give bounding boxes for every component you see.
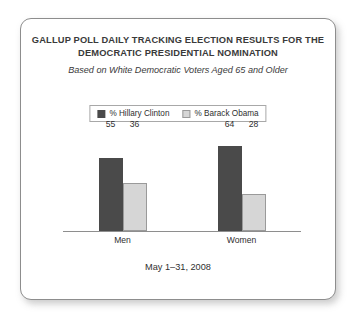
category-label-men: Men (93, 235, 153, 245)
chart-title-line-2: DEMOCRATIC PRESIDENTIAL NOMINATION (21, 47, 335, 60)
legend-label-obama: % Barack Obama (194, 109, 258, 118)
chart-title-line-1: GALLUP POLL DAILY TRACKING ELECTION RESU… (21, 34, 335, 47)
screenshot-stage: GALLUP POLL DAILY TRACKING ELECTION RESU… (0, 0, 356, 320)
bar-value-men-obama: 36 (130, 119, 140, 129)
bar-women-clinton (218, 146, 242, 231)
bar-wrap-men-obama: 36 (123, 131, 147, 231)
legend-swatch-icon-obama (182, 110, 190, 118)
bar-value-women-clinton: 64 (225, 119, 235, 129)
chart-legend: % Hillary Clinton % Barack Obama (89, 105, 266, 122)
bar-group-men: 55 36 (99, 131, 147, 231)
bar-men-obama (123, 183, 147, 231)
chart-footer-date: May 1–31, 2008 (21, 262, 335, 272)
legend-swatch-icon-clinton (97, 110, 105, 118)
legend-item-obama: % Barack Obama (182, 109, 258, 118)
chart-plot-area: 55 36 64 28 (63, 131, 301, 231)
legend-item-clinton: % Hillary Clinton (97, 109, 169, 118)
legend-label-clinton: % Hillary Clinton (109, 109, 169, 118)
chart-category-labels: Men Women (63, 235, 301, 245)
bar-wrap-women-obama: 28 (242, 131, 266, 231)
category-label-women: Women (212, 235, 272, 245)
bar-value-women-obama: 28 (249, 119, 259, 129)
bar-value-men-clinton: 55 (106, 119, 116, 129)
chart-subtitle: Based on White Democratic Voters Aged 65… (21, 64, 335, 76)
bar-group-women: 64 28 (218, 131, 266, 231)
chart-card: GALLUP POLL DAILY TRACKING ELECTION RESU… (20, 18, 336, 300)
chart-titles: GALLUP POLL DAILY TRACKING ELECTION RESU… (21, 34, 335, 76)
bar-wrap-men-clinton: 55 (99, 131, 123, 231)
bar-women-obama (242, 194, 266, 231)
bar-men-clinton (99, 158, 123, 231)
bar-wrap-women-clinton: 64 (218, 131, 242, 231)
chart-axis-baseline (63, 231, 301, 232)
